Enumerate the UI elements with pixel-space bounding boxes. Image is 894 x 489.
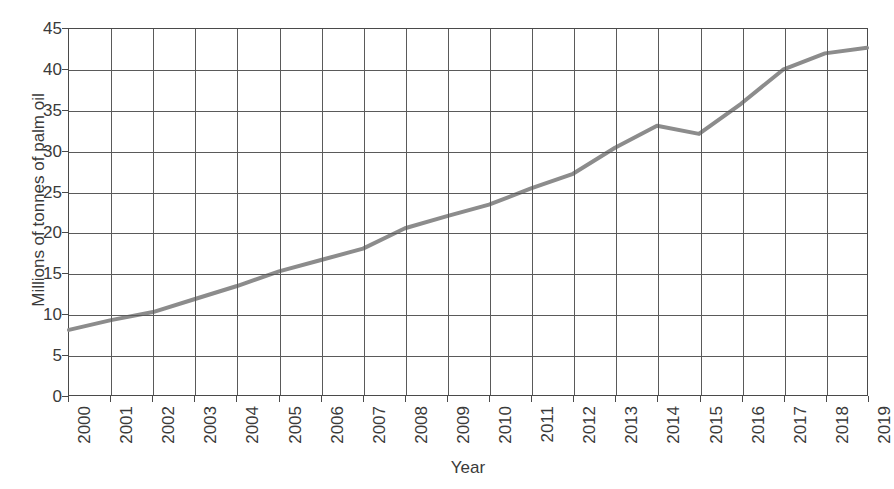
gridline-vertical [406,29,407,395]
gridline-vertical [322,29,323,395]
x-axis-tick-label: 2012 [581,406,599,466]
y-axis-tick-labels: 051015202530354045 [30,0,62,489]
x-axis-tick-mark [784,396,785,402]
y-axis-tick-mark [62,314,68,315]
x-axis-tick-label: 2018 [834,406,852,466]
x-axis-tick-mark [405,396,406,402]
gridline-horizontal [69,315,867,316]
gridline-vertical [364,29,365,395]
series-line [69,48,867,330]
x-axis-tick-mark [194,396,195,402]
gridline-vertical [490,29,491,395]
y-axis-tick-label: 40 [30,60,62,77]
x-axis-tick-mark [152,396,153,402]
gridline-horizontal [69,356,867,357]
x-axis-tick-label: 2004 [244,406,262,466]
y-axis-tick-label: 20 [30,224,62,241]
x-axis-tick-label: 2017 [792,406,810,466]
x-axis-tick-mark [868,396,869,402]
gridline-horizontal [69,274,867,275]
x-axis-tick-mark [321,396,322,402]
gridline-vertical [532,29,533,395]
x-axis-tick-mark [489,396,490,402]
x-axis-tick-label: 2006 [329,406,347,466]
gridline-horizontal [69,233,867,234]
x-axis-tick-mark [700,396,701,402]
gridline-horizontal [69,193,867,194]
x-axis-tick-mark [110,396,111,402]
x-axis-tick-mark [573,396,574,402]
gridline-horizontal [69,152,867,153]
x-axis-tick-label: 2019 [876,406,894,466]
x-axis-tick-label: 2003 [202,406,220,466]
gridline-vertical [616,29,617,395]
x-axis-tick-label: 2007 [371,406,389,466]
x-axis-tick-mark [742,396,743,402]
x-axis-tick-label: 2001 [118,406,136,466]
x-axis-tick-label: 2010 [497,406,515,466]
gridline-vertical [785,29,786,395]
x-axis-tick-label: 2011 [539,406,557,466]
x-axis-tick-label: 2016 [750,406,768,466]
line-chart: Millions of tonnes of palm oil 051015202… [0,0,894,489]
data-series-palm-oil [69,29,867,395]
x-axis-tick-label: 2014 [665,406,683,466]
y-axis-tick-label: 30 [30,142,62,159]
gridline-vertical [658,29,659,395]
y-axis-tick-label: 10 [30,306,62,323]
x-axis-tick-label: 2000 [76,406,94,466]
x-axis-tick-label: 2013 [623,406,641,466]
gridline-vertical [701,29,702,395]
gridline-vertical [153,29,154,395]
gridline-vertical [827,29,828,395]
gridline-horizontal [69,111,867,112]
y-axis-tick-label: 0 [30,388,62,405]
x-axis-tick-mark [657,396,658,402]
x-axis-tick-mark [236,396,237,402]
gridline-vertical [111,29,112,395]
x-axis-tick-mark [826,396,827,402]
y-axis-tick-label: 15 [30,265,62,282]
x-axis-tick-mark [531,396,532,402]
x-axis-tick-label: 2002 [160,406,178,466]
gridline-horizontal [69,70,867,71]
x-axis-tick-label: 2008 [413,406,431,466]
x-axis-tick-mark [363,396,364,402]
y-axis-tick-mark [62,192,68,193]
y-axis-tick-label: 45 [30,20,62,37]
gridline-vertical [280,29,281,395]
x-axis-tick-mark [279,396,280,402]
x-axis-tick-mark [68,396,69,402]
gridline-vertical [448,29,449,395]
x-axis-tick-label: 2015 [708,406,726,466]
plot-area [68,28,868,396]
x-axis-tick-mark [615,396,616,402]
gridline-vertical [574,29,575,395]
y-axis-tick-mark [62,69,68,70]
y-axis-tick-mark [62,232,68,233]
gridline-vertical [743,29,744,395]
y-axis-tick-mark [62,273,68,274]
gridline-vertical [237,29,238,395]
gridline-vertical [195,29,196,395]
y-axis-tick-mark [62,151,68,152]
x-axis-tick-label: 2009 [455,406,473,466]
x-axis-tick-mark [447,396,448,402]
y-axis-tick-label: 35 [30,101,62,118]
y-axis-tick-label: 25 [30,183,62,200]
y-axis-tick-mark [62,110,68,111]
y-axis-tick-mark [62,355,68,356]
y-axis-tick-mark [62,28,68,29]
x-axis-tick-label: 2005 [287,406,305,466]
y-axis-tick-label: 5 [30,347,62,364]
